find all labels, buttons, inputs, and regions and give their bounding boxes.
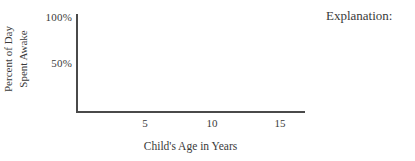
y-axis-tick-labels: 100% 50% [8, 0, 72, 120]
explanation-label: Explanation: [326, 8, 392, 23]
plot-area[interactable] [78, 14, 305, 111]
chart-figure: Percent of Day Spent Awake 100% 50% 5 10… [0, 0, 310, 161]
x-axis-line [76, 111, 305, 113]
y-tick-label-100: 100% [12, 11, 72, 23]
x-tick-label-5: 5 [125, 117, 165, 129]
x-tick-label-15: 15 [260, 117, 300, 129]
y-tick-label-50: 50% [12, 57, 72, 69]
x-axis-title: Child's Age in Years [76, 139, 305, 153]
x-tick-label-10: 10 [192, 117, 232, 129]
